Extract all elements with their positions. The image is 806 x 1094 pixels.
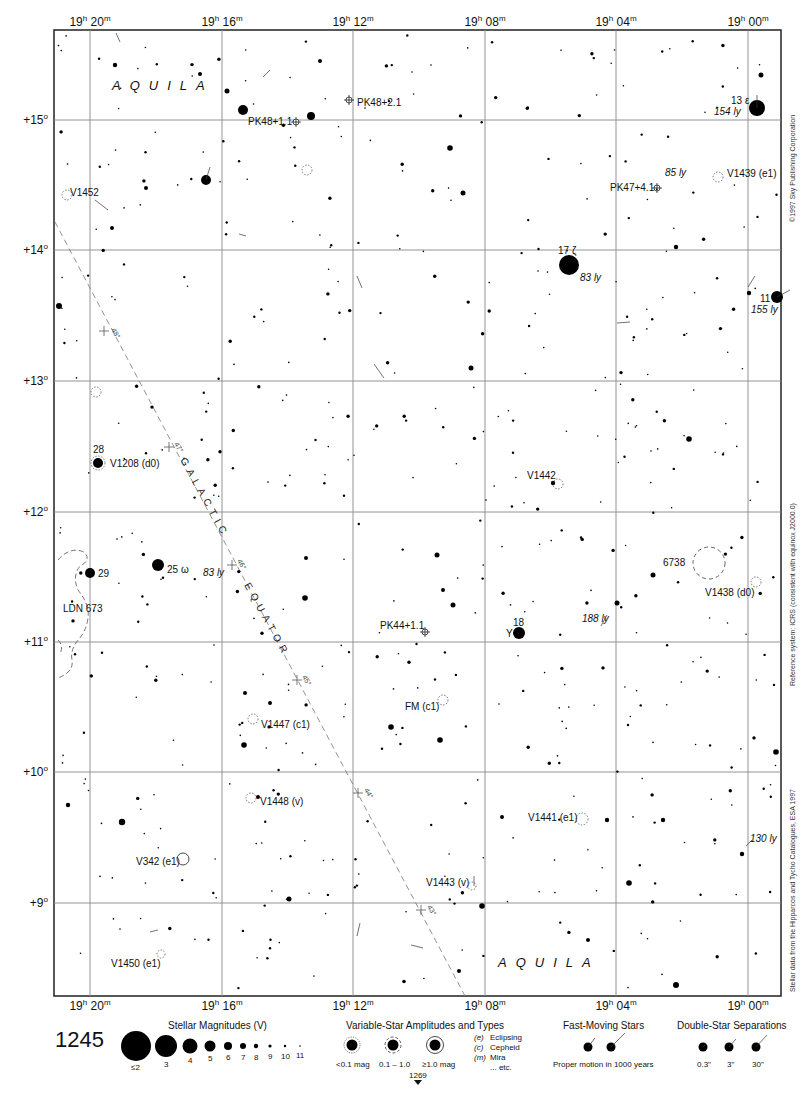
fast-moving-legend-symbols	[575, 1030, 655, 1056]
svg-text:44°: 44°	[363, 787, 374, 800]
mag-label-2: ≤2	[131, 1063, 140, 1072]
type-code-e: (e)	[474, 1033, 484, 1042]
dec-label-11: +11o	[4, 634, 48, 649]
mag-label-4: 4	[188, 1056, 192, 1065]
svg-text:EQUATOR: EQUATOR	[242, 581, 292, 659]
variable-star-rings	[62, 165, 761, 958]
ra-label-bottom-1904: 19h 04m	[595, 998, 636, 1013]
galactic-equator-label: GALACTIC EQUATOR	[178, 456, 292, 659]
object-label: V342 (e1)	[136, 856, 180, 867]
ra-label-bottom-1912: 19h 12m	[332, 998, 373, 1013]
ra-label-bottom-1920: 19h 20m	[69, 998, 110, 1013]
page-number: 1245	[55, 1027, 104, 1053]
object-label: PK44+1.1	[380, 620, 424, 631]
object-label: 83 ly	[580, 272, 601, 283]
ra-label-1916: 19h 16m	[201, 14, 242, 29]
object-label: V1438 (d0)	[705, 587, 754, 598]
svg-text:GALACTIC: GALACTIC	[178, 456, 231, 540]
object-label: 85 ly	[665, 167, 686, 178]
object-label: V1452	[70, 187, 99, 198]
svg-text:45°: 45°	[301, 674, 312, 687]
object-label: V1448 (v)	[260, 796, 303, 807]
double-star-legend-symbols	[690, 1034, 790, 1054]
svg-text:47°: 47°	[173, 441, 184, 454]
object-label: 83 ly	[203, 567, 224, 578]
reference-system-note: Reference system: ICRS (consistent with …	[789, 503, 796, 686]
object-label: 29	[98, 568, 109, 579]
object-label: 6738	[663, 557, 685, 568]
ra-label-bottom-1908: 19h 08m	[464, 998, 505, 1013]
mag-label-5: 5	[208, 1054, 212, 1063]
object-label: V1442	[527, 470, 556, 481]
object-label: PK47+4.1	[610, 182, 654, 193]
ra-label-bottom-1900: 19h 00m	[727, 998, 768, 1013]
dec-label-12: +12o	[4, 504, 48, 519]
type-name-cepheid: Cepheid	[490, 1043, 520, 1052]
dec-label-10: +10o	[4, 764, 48, 779]
ra-label-1920: 19h 20m	[69, 14, 110, 29]
dark-nebula-outline	[58, 550, 88, 678]
ra-label-1908: 19h 08m	[464, 14, 505, 29]
copyright-note: ©1997 Sky Publishing Corporation	[789, 115, 796, 222]
next-page-arrow-icon[interactable]	[414, 1080, 422, 1085]
object-label: 155 ly	[751, 304, 778, 315]
object-label: 154 ly	[714, 106, 741, 117]
type-code-m: (m)	[474, 1053, 486, 1062]
mag-label-9: 9	[268, 1052, 272, 1061]
object-label: V1447 (c1)	[261, 719, 310, 730]
object-label: 17 ζ	[558, 245, 576, 256]
object-label: 28	[93, 444, 104, 455]
next-page-number[interactable]: 1269	[409, 1071, 427, 1080]
svg-text:43°: 43°	[426, 904, 437, 917]
mag-label-11: 11	[296, 1051, 304, 1060]
double-sep-03: 0.3"	[697, 1060, 711, 1069]
mag-label-6: 6	[226, 1053, 230, 1062]
svg-text:48°: 48°	[110, 327, 121, 340]
mag-label-3: 3	[164, 1060, 168, 1069]
variable-legend-title: Variable-Star Amplitudes and Types	[346, 1020, 504, 1031]
object-label: 25 ω	[167, 564, 189, 575]
data-source-note: Stellar data from the Hipparcos and Tych…	[789, 789, 796, 992]
dec-gridlines	[54, 120, 781, 903]
ra-gridlines	[90, 30, 748, 996]
double-sep-3: 3"	[727, 1060, 734, 1069]
open-cluster-6738	[693, 547, 725, 579]
star-chart: 48° 47° 46° 45° 44° 43° GALACTIC EQUATOR	[0, 0, 806, 1000]
constellation-label-aquila: AQUILA	[112, 78, 214, 93]
ra-label-1912: 19h 12m	[332, 14, 373, 29]
object-label: 18	[513, 617, 524, 628]
dec-label-15: +15o	[4, 112, 48, 127]
object-label: V1450 (e1)	[111, 958, 160, 969]
mag-label-7: 7	[241, 1053, 245, 1062]
double-sep-30: 30"	[752, 1060, 764, 1069]
ra-label-1900: 19h 00m	[727, 14, 768, 29]
svg-text:46°: 46°	[236, 558, 247, 571]
object-label: V1441 (e1)	[528, 812, 577, 823]
amp-label-medium: 0.1 – 1.0	[379, 1060, 410, 1069]
object-label: FM (c1)	[405, 701, 439, 712]
object-label: PK48+2.1	[357, 97, 401, 108]
object-label: Y	[506, 628, 513, 639]
dec-label-9: +9o	[4, 895, 48, 910]
type-etc: ... etc.	[490, 1063, 512, 1072]
object-label: PK48+1.1	[248, 116, 292, 127]
object-label: V1439 (e1)	[727, 168, 776, 179]
magnitude-legend-dots	[115, 1030, 315, 1072]
dec-label-14: +14o	[4, 242, 48, 257]
double-star-legend-title: Double-Star Separations	[677, 1020, 787, 1031]
planetary-nebula-symbols	[291, 95, 662, 637]
dec-label-13: +13o	[4, 373, 48, 388]
object-label: 188 ly	[582, 613, 609, 624]
type-name-eclipsing: Eclipsing	[490, 1033, 522, 1042]
type-name-mira: Mira	[490, 1053, 506, 1062]
variable-legend-symbols	[335, 1033, 475, 1059]
ra-label-bottom-1916: 19h 16m	[201, 998, 242, 1013]
fast-moving-caption: Proper motion in 1000 years	[553, 1060, 654, 1069]
field-stars-medium	[56, 59, 779, 988]
constellation-label-aquila-south: AQUILA	[498, 955, 600, 970]
object-label: 13 ε	[731, 95, 749, 106]
object-label: V1208 (d0)	[110, 458, 159, 469]
type-code-c: (c)	[474, 1043, 483, 1052]
amp-label-large: ≥1.0 mag	[422, 1060, 455, 1069]
object-label: V1443 (v)	[426, 877, 469, 888]
